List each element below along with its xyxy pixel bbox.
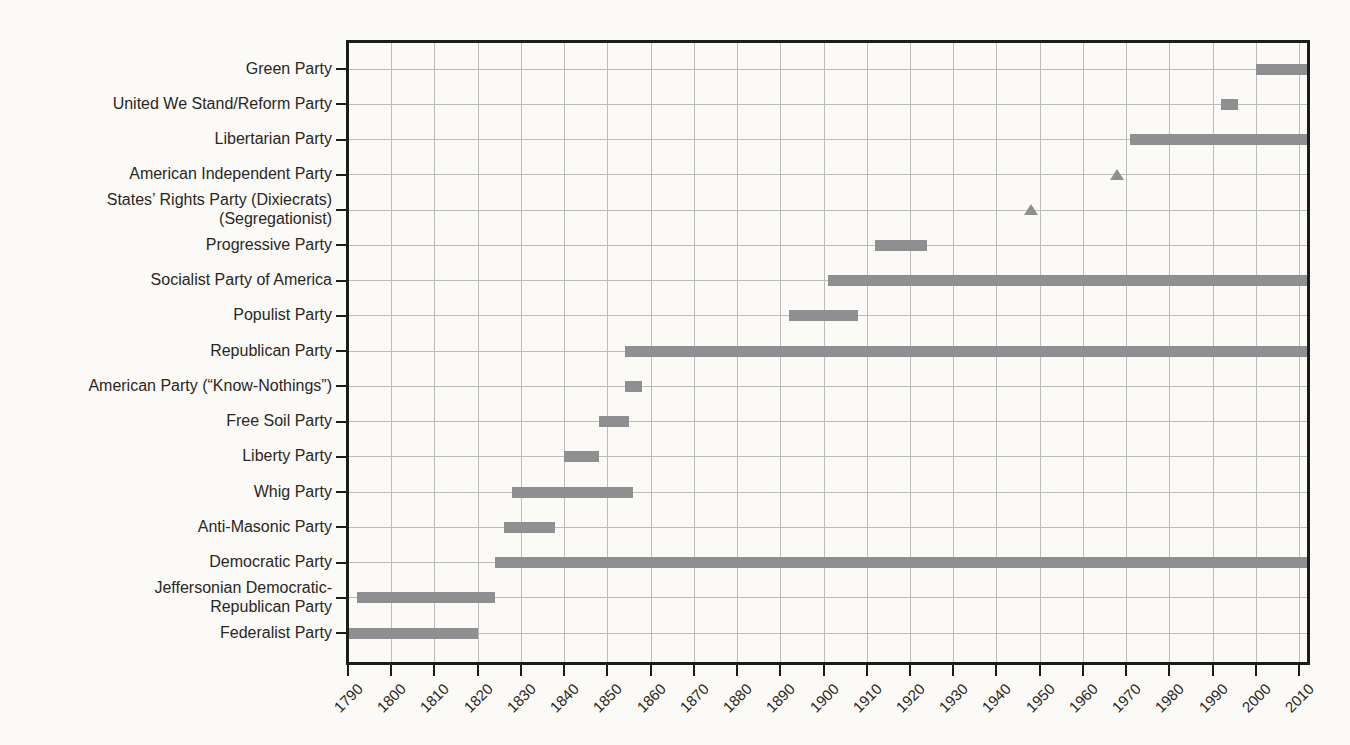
x-tick-label-1950: 1950 bbox=[1022, 680, 1058, 716]
x-tick bbox=[433, 664, 435, 676]
x-tick bbox=[866, 664, 868, 676]
row-label-jeffersonian-democratic: Jeffersonian Democratic-Republican Party bbox=[0, 578, 332, 616]
row-label-free-soil-party: Free Soil Party bbox=[0, 411, 332, 430]
row-label-line: American Independent Party bbox=[129, 165, 332, 182]
x-tick bbox=[693, 664, 695, 676]
row-label-line: Federalist Party bbox=[220, 624, 332, 641]
x-tick-label-1900: 1900 bbox=[806, 680, 842, 716]
x-tick-label-1880: 1880 bbox=[719, 680, 755, 716]
row-label-line: Socialist Party of America bbox=[151, 271, 332, 288]
x-tick bbox=[995, 664, 997, 676]
x-tick-label-1970: 1970 bbox=[1108, 680, 1144, 716]
x-tick-label-1920: 1920 bbox=[892, 680, 928, 716]
party-timeline-chart: Green PartyUnited We Stand/Reform PartyL… bbox=[0, 0, 1350, 745]
x-tick-label-1820: 1820 bbox=[460, 680, 496, 716]
row-label-line: United We Stand/Reform Party bbox=[113, 95, 332, 112]
x-tick bbox=[606, 664, 608, 676]
x-tick bbox=[1082, 664, 1084, 676]
row-label-liberty-party: Liberty Party bbox=[0, 446, 332, 465]
row-label-line: Libertarian Party bbox=[215, 130, 332, 147]
row-label-federalist-party: Federalist Party bbox=[0, 623, 332, 642]
x-tick-label-1870: 1870 bbox=[676, 680, 712, 716]
row-label-line: Progressive Party bbox=[206, 236, 332, 253]
x-tick-label-1830: 1830 bbox=[503, 680, 539, 716]
x-tick bbox=[952, 664, 954, 676]
x-tick bbox=[1298, 664, 1300, 676]
x-tick-label-2000: 2000 bbox=[1238, 680, 1274, 716]
x-tick-label-2010: 2010 bbox=[1281, 680, 1317, 716]
x-tick bbox=[520, 664, 522, 676]
row-label-line: Whig Party bbox=[254, 483, 332, 500]
plot-border bbox=[346, 40, 1310, 665]
row-label-line: Green Party bbox=[246, 60, 332, 77]
row-label-american-independent-party: American Independent Party bbox=[0, 164, 332, 183]
x-tick bbox=[1039, 664, 1041, 676]
x-tick bbox=[1212, 664, 1214, 676]
x-tick bbox=[347, 664, 349, 676]
row-label-democratic-party: Democratic Party bbox=[0, 552, 332, 571]
row-label-american-party-know-nothings: American Party (“Know-Nothings”) bbox=[0, 376, 332, 395]
row-label-anti-masonic-party: Anti-Masonic Party bbox=[0, 517, 332, 536]
row-label-line: Republican Party bbox=[210, 342, 332, 359]
x-tick-label-1850: 1850 bbox=[590, 680, 626, 716]
x-tick-label-1800: 1800 bbox=[374, 680, 410, 716]
row-label-libertarian-party: Libertarian Party bbox=[0, 129, 332, 148]
row-label-line: Jeffersonian Democratic- bbox=[154, 579, 332, 596]
row-label-line: Republican Party bbox=[210, 598, 332, 615]
row-label-progressive-party: Progressive Party bbox=[0, 235, 332, 254]
x-tick bbox=[823, 664, 825, 676]
row-label-line: American Party (“Know-Nothings”) bbox=[88, 377, 332, 394]
row-label-line: Democratic Party bbox=[209, 553, 332, 570]
row-label-green-party: Green Party bbox=[0, 59, 332, 78]
x-tick-label-1890: 1890 bbox=[763, 680, 799, 716]
row-label-states-rights-party-dixiecrats: States’ Rights Party (Dixiecrats)(Segreg… bbox=[0, 190, 332, 228]
x-tick-label-1990: 1990 bbox=[1195, 680, 1231, 716]
x-tick-label-1840: 1840 bbox=[547, 680, 583, 716]
row-label-line: Anti-Masonic Party bbox=[198, 518, 332, 535]
x-tick-label-1860: 1860 bbox=[633, 680, 669, 716]
x-tick-label-1940: 1940 bbox=[979, 680, 1015, 716]
x-tick bbox=[736, 664, 738, 676]
row-label-line: Free Soil Party bbox=[226, 412, 332, 429]
x-tick bbox=[1168, 664, 1170, 676]
row-label-republican-party: Republican Party bbox=[0, 341, 332, 360]
row-label-socialist-party-of-america: Socialist Party of America bbox=[0, 270, 332, 289]
x-tick-label-1930: 1930 bbox=[936, 680, 972, 716]
x-tick-label-1910: 1910 bbox=[849, 680, 885, 716]
x-tick bbox=[779, 664, 781, 676]
row-label-line: States’ Rights Party (Dixiecrats) bbox=[107, 191, 332, 208]
x-tick-label-1790: 1790 bbox=[330, 680, 366, 716]
x-tick bbox=[563, 664, 565, 676]
x-tick bbox=[909, 664, 911, 676]
row-label-populist-party: Populist Party bbox=[0, 305, 332, 324]
x-tick bbox=[1125, 664, 1127, 676]
row-label-united-we-stand-reform-party: United We Stand/Reform Party bbox=[0, 94, 332, 113]
x-tick-label-1960: 1960 bbox=[1065, 680, 1101, 716]
row-label-line: Populist Party bbox=[233, 306, 332, 323]
row-label-line: Liberty Party bbox=[242, 447, 332, 464]
row-label-line: (Segregationist) bbox=[219, 210, 332, 227]
x-tick-label-1980: 1980 bbox=[1152, 680, 1188, 716]
x-tick bbox=[1255, 664, 1257, 676]
row-label-whig-party: Whig Party bbox=[0, 482, 332, 501]
x-tick bbox=[390, 664, 392, 676]
x-tick-label-1810: 1810 bbox=[417, 680, 453, 716]
x-tick bbox=[477, 664, 479, 676]
x-tick bbox=[650, 664, 652, 676]
